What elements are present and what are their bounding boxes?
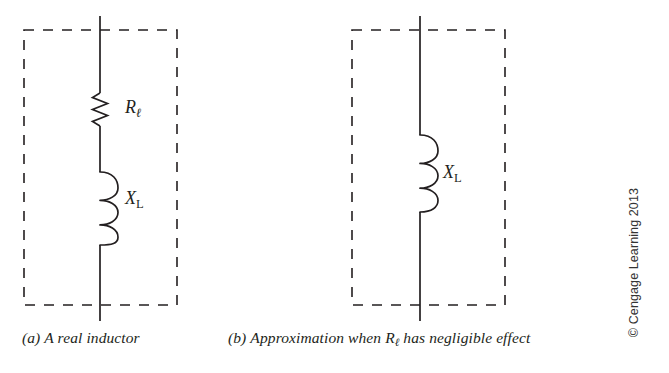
panel-b-dashed-box — [352, 30, 505, 305]
component-label-rl-subscript: ℓ — [136, 106, 141, 120]
inductor-symbol-xl-b — [420, 135, 438, 212]
panel-b-caption-text-before: Approximation when — [250, 329, 385, 346]
component-label-xl-b-subscript: L — [454, 171, 462, 185]
panel-b-caption-text-after: has negligible effect — [399, 329, 530, 346]
component-label-xl-panel-a: XL — [125, 189, 144, 210]
panel-a-caption: (a) A real inductor — [22, 330, 140, 346]
resistor-symbol-rl — [93, 93, 108, 126]
circuit-diagram-canvas — [0, 0, 669, 373]
component-label-xl-b-base: X — [443, 162, 454, 182]
panel-a-caption-prefix: (a) — [22, 329, 40, 346]
panel-a-caption-text: A real inductor — [44, 329, 139, 346]
figure-inductor-models: Rℓ XL XL (a) A real inductor (b) Approxi… — [0, 0, 669, 373]
component-label-rl-base: R — [125, 97, 136, 117]
panel-b-caption-symbol-base: R — [385, 329, 395, 346]
component-label-xl-a-subscript: L — [136, 197, 144, 211]
panel-a-circuit — [24, 16, 177, 321]
panel-b-caption-prefix: (b) — [228, 329, 246, 346]
panel-b-circuit — [352, 16, 505, 321]
component-label-xl-a-base: X — [125, 188, 136, 208]
inductor-symbol-xl-a — [100, 172, 118, 245]
copyright-credit: © Cengage Learning 2013 — [628, 188, 641, 337]
component-label-xl-panel-b: XL — [443, 163, 462, 184]
panel-b-caption: (b) Approximation when Rℓ has negligible… — [228, 330, 530, 348]
component-label-rl: Rℓ — [125, 98, 141, 119]
